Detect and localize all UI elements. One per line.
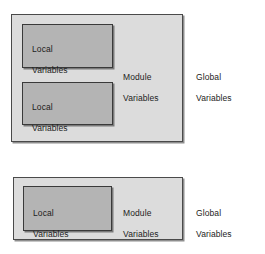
global-scope-label-top: Global Variables xyxy=(196,61,232,114)
global-scope-label-bottom: Global Variables xyxy=(196,197,232,250)
local-scope-label-line1: Local xyxy=(32,44,68,55)
local-scope-label-line2: Variables xyxy=(33,229,69,240)
module-scope-label-bottom: Module Variables xyxy=(123,197,159,250)
module-scope-label-line1: Module xyxy=(123,208,159,219)
global-scope-label-line1: Global xyxy=(196,208,232,219)
global-scope-label-line2: Variables xyxy=(196,229,232,240)
local-scope-label-line1: Local xyxy=(33,208,69,219)
local-scope-label-bottom-1: Local Variables xyxy=(33,197,69,250)
module-scope-label-top: Module Variables xyxy=(123,61,159,114)
local-scope-label-line2: Variables xyxy=(32,65,68,76)
module-scope-label-line1: Module xyxy=(123,72,159,83)
global-scope-label-line2: Variables xyxy=(196,93,232,104)
module-scope-label-line2: Variables xyxy=(123,229,159,240)
local-scope-label-line1: Local xyxy=(32,102,68,113)
module-scope-label-line2: Variables xyxy=(123,93,159,104)
local-scope-label-top-1: Local Variables xyxy=(32,33,68,86)
local-scope-label-top-2: Local Variables xyxy=(32,91,68,144)
global-scope-label-line1: Global xyxy=(196,72,232,83)
local-scope-label-line2: Variables xyxy=(32,123,68,134)
